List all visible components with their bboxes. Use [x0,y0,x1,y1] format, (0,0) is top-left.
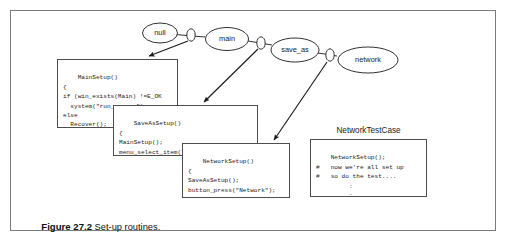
node-null-label: null [154,28,166,37]
connector-port-3-ellipse[interactable] [326,49,334,61]
arrow-to-saveassetup [204,49,258,102]
connector-port-2-ellipse[interactable] [257,37,265,49]
figure-page: null main save_as network MainSetup() { … [0,0,509,248]
node-network-label: network [355,55,381,64]
code-box-networktestcase[interactable]: NetworkSetup(); # now we're all set up #… [310,139,427,197]
code-text-networktestcase: NetworkSetup(); # now we're all set up #… [316,154,411,197]
node-ellipses [143,23,399,73]
figure-caption: Figure 27.2 Set-up routines. [31,211,160,242]
node-save-as-label: save_as [281,45,309,54]
figure-caption-number: Figure 27.2 [41,221,92,232]
code-box-networksetup[interactable]: NetworkSetup() { SaveAsSetup(); button_p… [182,143,290,198]
figure-caption-text: Set-up routines. [95,222,161,232]
arrow-to-mainsetup [149,41,188,56]
node-main-label: main [219,34,235,43]
code-text-networksetup: NetworkSetup() { SaveAsSetup(); button_p… [188,158,276,198]
testcase-title-label: NetworkTestCase [310,126,427,135]
connector-port-1-ellipse[interactable] [187,29,195,41]
